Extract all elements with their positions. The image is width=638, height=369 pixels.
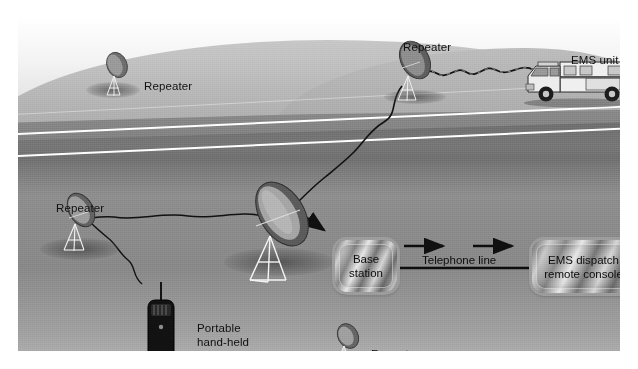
label-repeater-fore-bottom: Repeater (371, 348, 419, 351)
figure-canvas: Base station EMS dispatch remote console… (0, 0, 638, 369)
dish-fore-left-art (48, 190, 128, 262)
telephone-line-label: Telephone line (422, 254, 496, 266)
dish-fore-bottom-art (324, 324, 380, 351)
ems-dispatch-label: EMS dispatch remote console (544, 253, 620, 281)
label-portable-hand-held-radio: Portable hand-held radio (197, 322, 249, 351)
portable-radio-art (136, 280, 186, 351)
label-ems-unit: EMS unit (571, 54, 618, 68)
dish-hill-left-art (90, 52, 160, 104)
label-repeater-hill-right: Repeater (403, 41, 451, 55)
base-station-label: Base station (349, 252, 383, 280)
base-station-box[interactable]: Base station (335, 240, 397, 292)
label-repeater-hill-left: Repeater (144, 80, 192, 94)
label-repeater-fore-left: Repeater (56, 202, 104, 216)
dish-fore-main-art (230, 176, 340, 286)
ems-dispatch-remote-console-box[interactable]: EMS dispatch remote console (532, 240, 620, 293)
diagram-scene: Base station EMS dispatch remote console… (18, 18, 620, 351)
